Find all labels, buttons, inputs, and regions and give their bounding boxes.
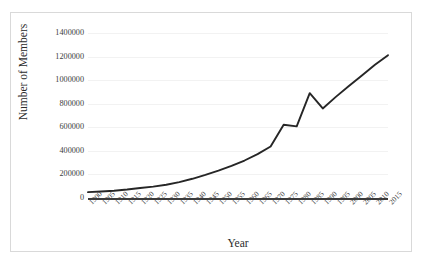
y-axis-tick-label: 600000: [22, 123, 84, 131]
y-axis-tick-label: 1000000: [22, 76, 84, 84]
line-series-svg: [88, 33, 388, 198]
x-axis-title: Year: [88, 237, 388, 249]
chart-figure: Number of Members 0200000400000600000800…: [0, 0, 423, 273]
x-axis-tick-labels: 1900190519101915192019251930193519401945…: [88, 200, 388, 234]
y-axis-tick-label: 800000: [22, 100, 84, 108]
y-axis-tick-label: 0: [22, 194, 84, 202]
plot-area: [88, 33, 388, 198]
y-axis-tick-label: 1200000: [22, 53, 84, 61]
line-series-path: [88, 55, 388, 192]
y-axis-tick-label: 1400000: [22, 29, 84, 37]
y-axis-tick-label: 400000: [22, 147, 84, 155]
y-axis-tick-label: 200000: [22, 170, 84, 178]
y-axis-tick-labels: 0200000400000600000800000100000012000001…: [18, 33, 84, 198]
